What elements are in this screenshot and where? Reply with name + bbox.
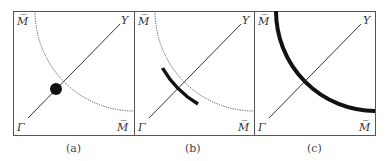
panel-c-label-bottom-right: M̅ <box>358 120 371 134</box>
panel-a-caption: (a) <box>66 142 81 155</box>
panel-a: M̅ Y Γ M̅ (a) <box>14 11 135 155</box>
figure: M̅ Y Γ M̅ (a) M̅ Y Γ M̅ (b) M̅ Y Γ M̅ (c… <box>0 0 387 161</box>
panel-b-caption: (b) <box>185 142 201 155</box>
panel-b-label-bottom-left: Γ <box>137 121 146 134</box>
panel-c-label-top-right: Y <box>363 14 372 27</box>
panel-c-label-top-left: M̅ <box>257 14 270 28</box>
panel-c: M̅ Y Γ M̅ (c) <box>255 11 376 155</box>
panel-a-label-top-left: M̅ <box>16 14 29 28</box>
panel-c-diagonal <box>269 24 361 118</box>
panel-a-intersection-dot <box>50 83 62 95</box>
panel-a-diagonal <box>28 24 120 118</box>
panel-a-label-top-right: Y <box>121 14 130 27</box>
panel-a-label-bottom-left: Γ <box>16 121 25 134</box>
panel-c-frame <box>255 12 376 136</box>
panel-c-label-bottom-left: Γ <box>257 121 266 134</box>
panel-a-frame <box>14 12 135 136</box>
panel-b-label-top-left: M̅ <box>137 14 150 28</box>
panel-b-label-top-right: Y <box>242 14 251 27</box>
panel-b: M̅ Y Γ M̅ (b) <box>135 11 255 155</box>
panel-a-label-bottom-right: M̅ <box>116 120 129 134</box>
panel-c-caption: (c) <box>307 142 322 155</box>
panel-b-label-bottom-right: M̅ <box>237 120 250 134</box>
panel-b-frame <box>135 12 255 136</box>
